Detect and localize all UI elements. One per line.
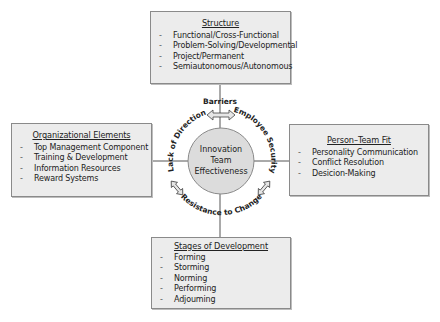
center-line-3: Effectiveness: [194, 167, 247, 176]
bullet: -: [159, 41, 162, 51]
list-item: -Adjouming: [152, 295, 290, 305]
list-item: -Semiautonomous/Autonomous: [151, 62, 290, 72]
center-line-1: Innovation: [200, 145, 242, 154]
list-item: -Desicion-Making: [290, 169, 428, 179]
bullet: -: [159, 31, 162, 41]
list-item: -Personality Communication: [290, 148, 428, 158]
list-item: -Project/Permanent: [151, 52, 290, 62]
bullet: -: [160, 274, 163, 284]
organizational-elements-title: Organizational Elements: [12, 130, 151, 140]
list-item: -Conflict Resolution: [290, 158, 428, 168]
list-item: -Functional/Cross-Functional: [151, 31, 290, 41]
person-team-fit-list: -Personality Communication -Conflict Res…: [290, 148, 428, 179]
organizational-elements-box: Organizational Elements -Top Management …: [11, 123, 152, 197]
bullet: -: [20, 174, 23, 184]
bullet: -: [20, 153, 23, 163]
barrier-top-label: Barriers: [203, 97, 238, 106]
bullet: -: [20, 164, 23, 174]
list-item: -Training & Development: [12, 153, 151, 163]
stages-of-development-box: Stages of Development -Forming -Storming…: [151, 237, 291, 309]
structure-box: Structure -Functional/Cross-Functional -…: [150, 11, 291, 84]
list-item: -Performing: [152, 284, 290, 294]
person-team-fit-title: Person–Team Fit: [290, 135, 428, 145]
bullet: -: [20, 143, 23, 153]
list-item: -Reward Systems: [12, 174, 151, 184]
list-item: -Forming: [152, 253, 290, 263]
bullet: -: [159, 62, 162, 72]
bullet: -: [159, 52, 162, 62]
structure-list: -Functional/Cross-Functional -Problem-So…: [151, 31, 290, 73]
list-item: -Information Resources: [12, 164, 151, 174]
bullet: -: [160, 263, 163, 273]
bullet: -: [160, 284, 163, 294]
center-line-2: Team: [209, 156, 231, 165]
bullet: -: [160, 295, 163, 305]
structure-title: Structure: [151, 18, 290, 28]
bullet: -: [298, 148, 301, 158]
person-team-fit-box: Person–Team Fit -Personality Communicati…: [289, 124, 429, 196]
barrier-bottom-label: Resistance to Change: [179, 192, 264, 217]
list-item: -Storming: [152, 263, 290, 273]
double-arrow-top-icon: [207, 110, 235, 120]
organizational-elements-list: -Top Management Component -Training & De…: [12, 143, 151, 185]
bullet: -: [298, 158, 301, 168]
list-item: -Top Management Component: [12, 143, 151, 153]
stages-of-development-title: Stages of Development: [152, 241, 290, 251]
bullet: -: [160, 253, 163, 263]
list-item: -Problem-Solving/Developmental: [151, 41, 290, 51]
bullet: -: [298, 169, 301, 179]
stages-of-development-list: -Forming -Storming -Norming -Performing …: [152, 253, 290, 305]
list-item: -Norming: [152, 274, 290, 284]
